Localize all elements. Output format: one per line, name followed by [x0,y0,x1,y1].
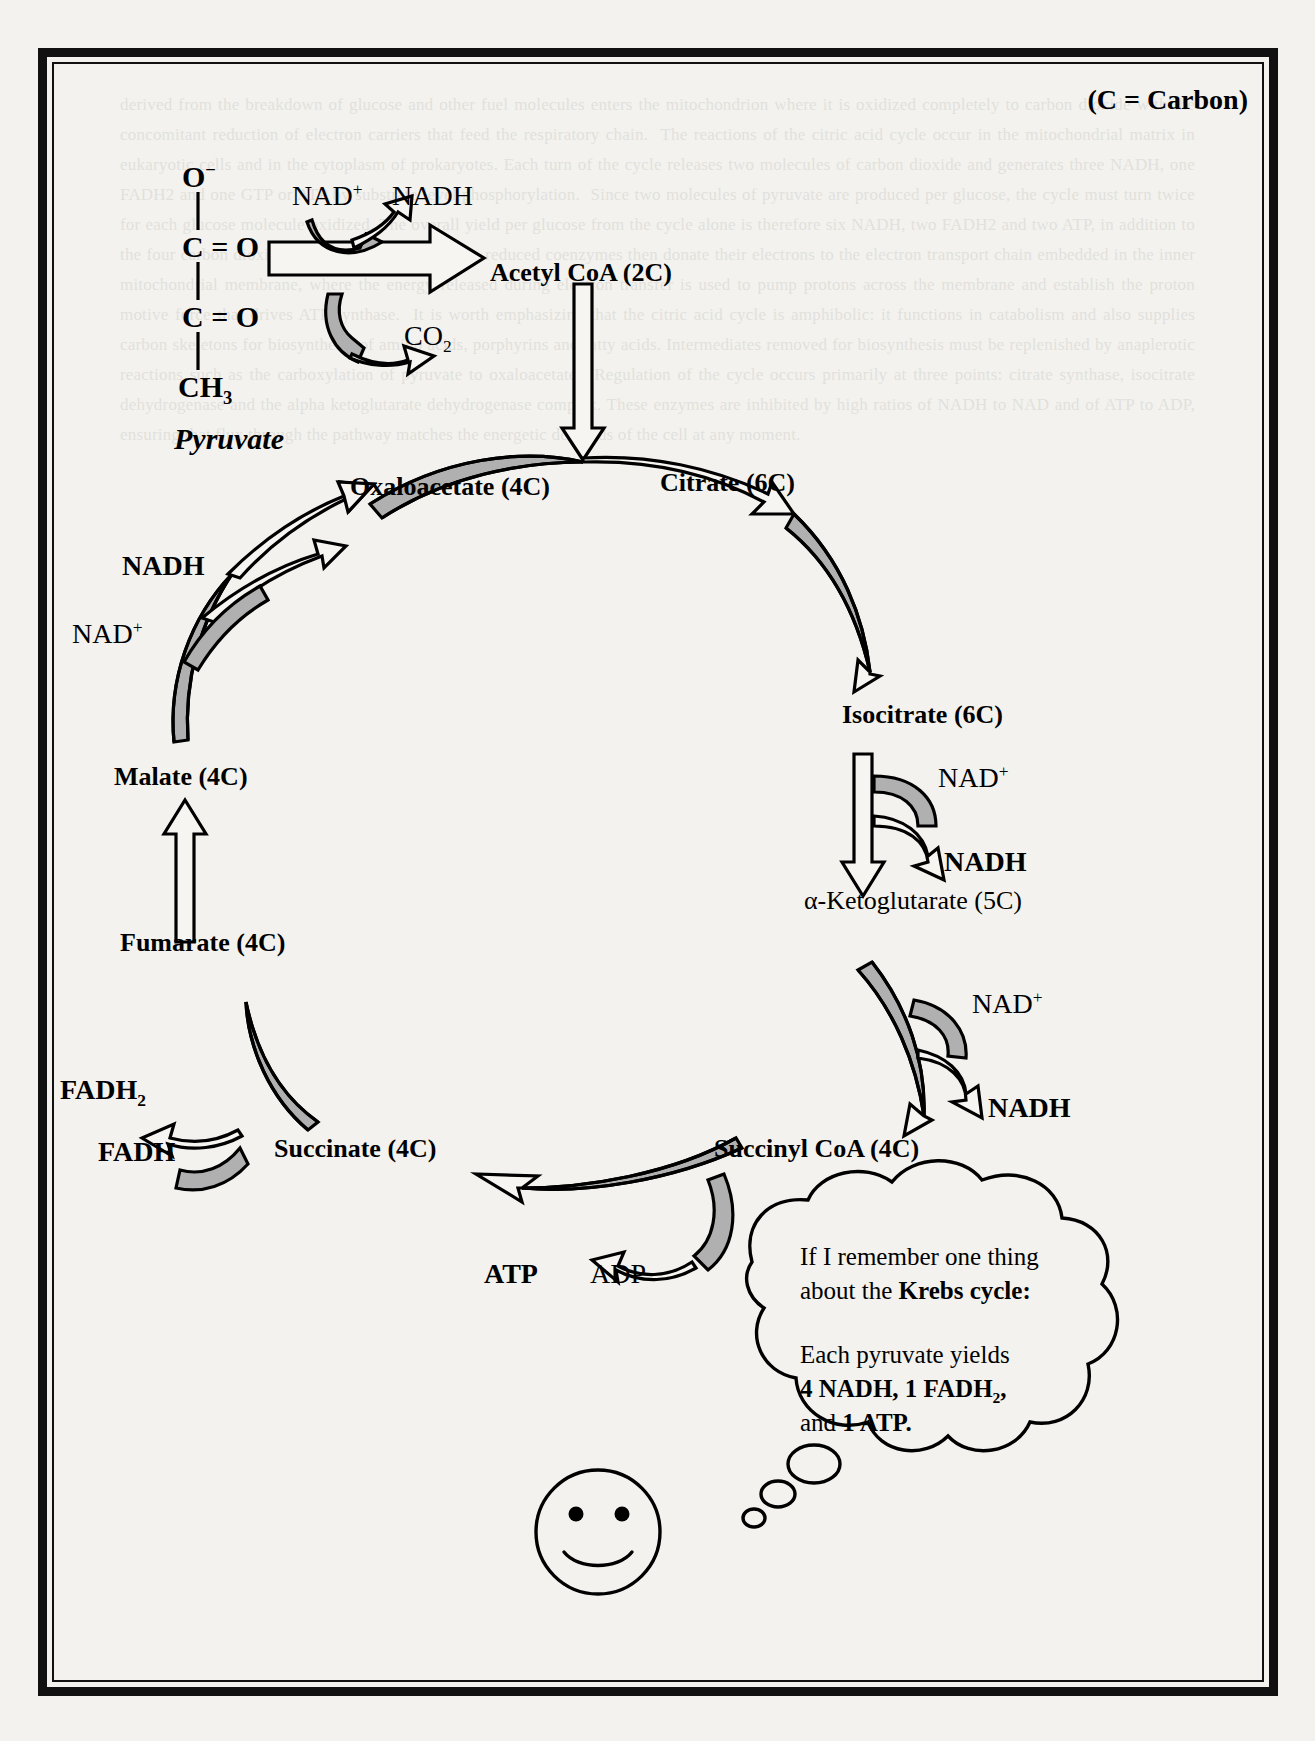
bubble-spacer [800,1308,1090,1338]
bubble-line-2: about the Krebs cycle: [800,1274,1090,1308]
bubble-line-4-text: 4 NADH, 1 FADH [800,1375,993,1402]
carbon-legend: (C = Carbon) [1087,84,1248,116]
acetylcoa-down-arrow [562,284,604,460]
structure-methyl: CH [178,370,223,403]
smiley-face [536,1470,660,1594]
succinate-to-fumarate-ribbon [246,1002,318,1130]
succinate-transition-ribbon [476,1138,742,1202]
structure-carbonyl-2: C = O [182,300,259,334]
bubble-line-4: 4 NADH, 1 FADH2, [800,1372,1090,1406]
co2-subscript: 2 [443,337,452,356]
intermediate-succinate: Succinate (4C) [274,1134,436,1164]
intermediate-isocitrate: Isocitrate (6C) [842,700,1003,730]
intermediate-malate: Malate (4C) [114,762,248,792]
bubble-line-2-prefix: about the [800,1277,899,1304]
intermediate-citrate: Citrate (6C) [660,468,795,498]
nad-plus-superscript: + [1033,988,1043,1007]
structure-oxygen: O [182,160,205,193]
adp-label: ADP [590,1258,646,1290]
structure-methyl-sub: 3 [223,387,232,408]
bubble-line-5: and 1 ATP. [800,1406,1090,1440]
co2-label: CO2 [404,320,452,352]
pyruvate-label: Pyruvate [174,422,284,456]
page-background: derived from the breakdown of glucose an… [0,0,1315,1741]
bubble-line-2-bold: Krebs cycle: [899,1277,1031,1304]
nadh-isocitrate-step: NADH [944,846,1026,878]
atp-label: ATP [484,1258,538,1290]
fadh2-base: FADH [60,1074,137,1105]
fadh2-subscript: 2 [137,1091,146,1110]
nad-plus-base: NAD [972,988,1033,1019]
acetyl-coa-label: Acetyl CoA (2C) [490,258,672,288]
fumarate-to-malate-arrow [164,800,206,942]
structure-carbonyl-1: C = O [182,230,259,264]
structure-oxygen-charge: − [205,159,216,180]
co2-base: CO [404,320,443,351]
nad-plus-ketoglutarate-step: NAD+ [972,988,1042,1020]
nad-plus-superscript: + [133,618,143,637]
intermediate-succinyl-coa: Succinyl CoA (4C) [714,1134,919,1164]
nad-plus-superscript: + [353,180,363,199]
nadh-ketoglutarate-step: NADH [988,1092,1070,1124]
citrate-to-isocitrate-ribbon [786,514,880,692]
malate-nad-crossing [184,482,372,670]
succinylcoa-to-succinate-ribbon [904,1104,932,1136]
nad-plus-malate-step: NAD+ [72,618,142,650]
fadh2-label: FADH2 [60,1074,146,1106]
bubble-line-5-bold: 1 ATP. [842,1409,911,1436]
krebs-cycle-diagram: .ol { fill: #f6f5f1; stroke: #000; strok… [52,62,1264,1682]
intermediate-fumarate: Fumarate (4C) [120,928,285,958]
ketoglutarate-to-succinylcoa-ribbon [858,962,924,1116]
bubble-line-1: If I remember one thing [800,1240,1090,1274]
bubble-line-4-tail: , [1000,1375,1006,1402]
nadh-decarboxylation: NADH [392,180,473,212]
nad-plus-decarboxylation: NAD+ [292,180,362,212]
isocitrate-nad-curl [874,776,944,880]
fadh-label: FADH [98,1136,175,1168]
bubble-line-3: Each pyruvate yields [800,1338,1090,1372]
nad-plus-base: NAD [292,180,353,211]
nadh-malate-step: NADH [122,550,204,582]
nad-plus-superscript: + [999,762,1009,781]
nad-plus-isocitrate-step: NAD+ [938,762,1008,794]
bubble-line-5-prefix: and [800,1409,842,1436]
thought-bubble-text: If I remember one thing about the Krebs … [800,1240,1090,1440]
intermediate-ketoglutarate: α-Ketoglutarate (5C) [804,886,1022,916]
nad-plus-base: NAD [72,618,133,649]
nad-plus-base: NAD [938,762,999,793]
intermediate-oxaloacetate: Oxaloacetate (4C) [350,472,550,502]
